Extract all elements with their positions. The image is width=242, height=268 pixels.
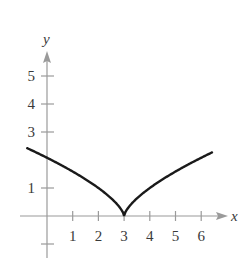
x-tick-label: 2 — [95, 228, 103, 244]
x-tick-label: 4 — [146, 228, 154, 244]
x-tick-label: 1 — [69, 228, 77, 244]
y-axis-label: y — [41, 31, 50, 47]
x-tick-label: 3 — [120, 228, 128, 244]
y-ticks: 1345 — [28, 68, 55, 244]
y-tick-label: 1 — [28, 180, 36, 196]
axes — [20, 51, 228, 258]
y-tick-label: 3 — [28, 124, 36, 140]
y-tick-label: 4 — [28, 96, 36, 112]
x-tick-label: 5 — [172, 228, 180, 244]
x-tick-label: 6 — [197, 228, 205, 244]
function-curve — [27, 148, 212, 216]
y-tick-label: 5 — [28, 68, 36, 84]
x-axis-label: x — [230, 208, 238, 224]
function-graph: 123456 1345 x y — [0, 0, 242, 268]
